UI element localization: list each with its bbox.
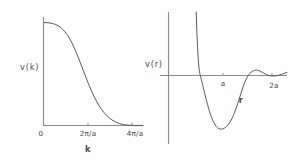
right-x-axis-label: r xyxy=(239,95,244,105)
left-panel-group: v(k) 0 2π/a 4π/a k xyxy=(20,17,143,154)
left-xtick-label-2pi-a: 2π/a xyxy=(80,129,97,138)
right-panel-group: v(r) a 2a r xyxy=(145,12,287,144)
right-xtick-label-a: a xyxy=(221,79,226,88)
left-y-axis-label: v(k) xyxy=(20,62,39,72)
left-xtick-label-0: 0 xyxy=(39,129,44,138)
left-x-axis-label: k xyxy=(85,144,91,154)
left-xtick-label-4pi-a: 4π/a xyxy=(127,129,144,138)
left-curve-vk xyxy=(44,23,143,126)
right-xtick-label-2a: 2a xyxy=(269,81,278,90)
two-panel-potential-figure: v(k) 0 2π/a 4π/a k v(r) a 2a r xyxy=(0,0,289,161)
right-curve-vr xyxy=(196,12,287,129)
right-y-axis-label: v(r) xyxy=(145,59,163,69)
figure-canvas: v(k) 0 2π/a 4π/a k v(r) a 2a r xyxy=(0,0,289,161)
